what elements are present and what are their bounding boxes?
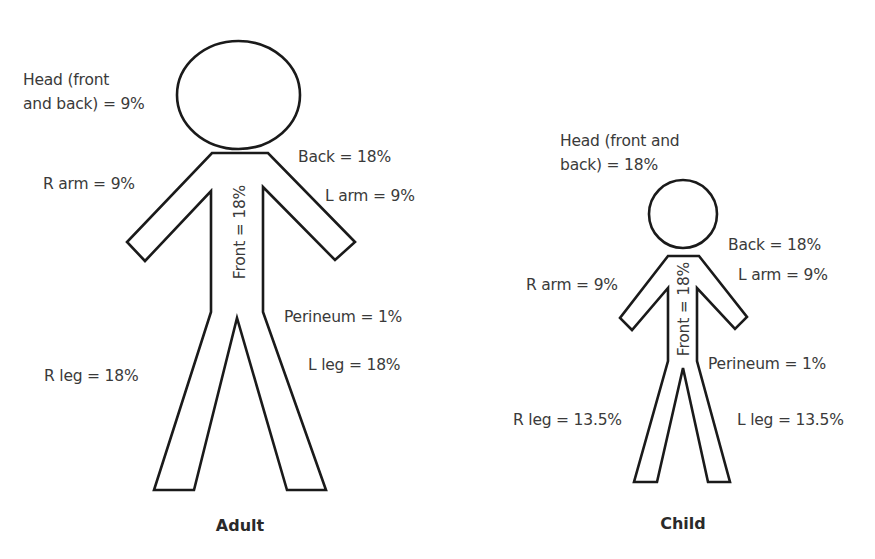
- child-caption: Child: [660, 514, 706, 533]
- child-perineum-label: Perineum = 1%: [708, 352, 826, 376]
- adult-caption: Adult: [216, 516, 264, 535]
- child-back-label: Back = 18%: [728, 233, 821, 257]
- adult-l-arm-label: L arm = 9%: [325, 184, 415, 208]
- adult-back-label: Back = 18%: [298, 145, 391, 169]
- child-head-shape: [649, 180, 717, 248]
- child-l-leg-label: L leg = 13.5%: [737, 408, 844, 432]
- adult-perineum-label: Perineum = 1%: [284, 305, 402, 329]
- child-head-label-line2: back) = 18%: [560, 153, 658, 177]
- child-r-arm-label: R arm = 9%: [526, 273, 618, 297]
- rule-of-nines-diagram: Head (front and back) = 9% R arm = 9% Ba…: [0, 0, 875, 559]
- adult-head-shape: [177, 41, 300, 149]
- adult-head-label-line1: Head (front: [23, 68, 109, 92]
- adult-front-label: Front = 18%: [231, 185, 249, 279]
- adult-r-arm-label: R arm = 9%: [43, 172, 135, 196]
- adult-head-label-line2: and back) = 9%: [23, 92, 145, 116]
- adult-l-leg-label: L leg = 18%: [308, 353, 400, 377]
- child-r-leg-label: R leg = 13.5%: [513, 408, 622, 432]
- adult-r-leg-label: R leg = 18%: [44, 364, 138, 388]
- child-l-arm-label: L arm = 9%: [738, 263, 828, 287]
- child-head-label-line1: Head (front and: [560, 129, 679, 153]
- child-front-label: Front = 18%: [675, 262, 693, 356]
